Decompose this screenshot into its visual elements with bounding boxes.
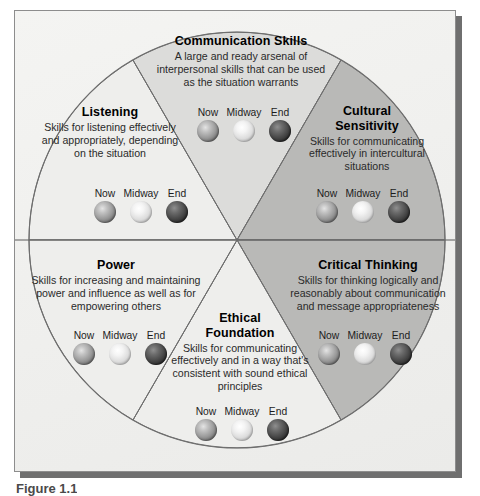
scale-communication-skills: Now Midway End [193, 107, 295, 142]
segment-description-cultural-sensitivity: Skills for communicating effectively in … [296, 135, 438, 174]
scale-label-now: Now [196, 406, 217, 417]
scale-cultural-sensitivity: Now Midway End [312, 188, 414, 223]
segment-description-ethical-foundation: Skills for communicating effectively and… [164, 342, 316, 394]
orb-end[interactable] [267, 419, 289, 441]
scale-item-now[interactable]: Now [314, 330, 344, 365]
segment-title-cultural-sensitivity: Cultural Sensitivity [296, 104, 438, 134]
scale-power: Now Midway End [69, 330, 171, 365]
orb-now[interactable] [73, 343, 95, 365]
orb-now[interactable] [197, 120, 219, 142]
orb-midway[interactable] [231, 419, 253, 441]
scale-label-midway: Midway [103, 330, 138, 341]
scale-item-now[interactable]: Now [191, 406, 221, 441]
segment-title-ethical-foundation: Ethical Foundation [164, 311, 316, 341]
segment-description-critical-thinking: Skills for thinking logically and reason… [286, 274, 450, 313]
scale-ethical-foundation: Now Midway End [191, 406, 293, 441]
scale-item-end[interactable]: End [263, 406, 293, 441]
scale-label-end: End [147, 330, 165, 341]
segment-power: Power Skills for increasing and maintain… [28, 258, 204, 313]
scale-label-end: End [390, 188, 408, 199]
scale-label-midway: Midway [348, 330, 383, 341]
figure-caption: Figure 1.1 [16, 481, 77, 496]
segment-title-power: Power [28, 258, 204, 273]
segment-title-listening: Listening [35, 105, 185, 120]
orb-midway[interactable] [354, 343, 376, 365]
segment-listening: Listening Skills for listening effective… [35, 105, 185, 160]
orb-now[interactable] [195, 419, 217, 441]
segment-communication-skills: Communication Skills A large and ready a… [156, 34, 326, 89]
scale-item-midway[interactable]: Midway [227, 406, 257, 441]
orb-now[interactable] [318, 343, 340, 365]
orb-end[interactable] [390, 343, 412, 365]
orb-midway[interactable] [352, 201, 374, 223]
segment-title-critical-thinking: Critical Thinking [286, 258, 450, 273]
segment-title-communication-skills: Communication Skills [156, 34, 326, 49]
orb-midway[interactable] [130, 201, 152, 223]
segment-title-line2: Sensitivity [335, 119, 399, 133]
scale-label-now: Now [319, 330, 340, 341]
segment-title-line1: Cultural [343, 104, 391, 118]
scale-label-end: End [392, 330, 410, 341]
orb-end[interactable] [269, 120, 291, 142]
segment-critical-thinking: Critical Thinking Skills for thinking lo… [286, 258, 450, 313]
scale-item-end[interactable]: End [141, 330, 171, 365]
scale-label-end: End [271, 107, 289, 118]
segment-description-power: Skills for increasing and maintaining po… [28, 274, 204, 313]
scale-item-end[interactable]: End [162, 188, 192, 223]
scale-item-end[interactable]: End [386, 330, 416, 365]
scale-item-midway[interactable]: Midway [348, 188, 378, 223]
scale-item-midway[interactable]: Midway [105, 330, 135, 365]
scale-label-now: Now [317, 188, 338, 199]
scale-item-midway[interactable]: Midway [350, 330, 380, 365]
orb-midway[interactable] [233, 120, 255, 142]
scale-label-midway: Midway [227, 107, 262, 118]
scale-label-end: End [168, 188, 186, 199]
scale-label-now: Now [74, 330, 95, 341]
scale-label-midway: Midway [225, 406, 260, 417]
orb-now[interactable] [94, 201, 116, 223]
scale-item-now[interactable]: Now [193, 107, 223, 142]
scale-critical-thinking: Now Midway End [314, 330, 416, 365]
scale-label-midway: Midway [346, 188, 381, 199]
orb-now[interactable] [316, 201, 338, 223]
scale-item-now[interactable]: Now [69, 330, 99, 365]
segment-title-line2: Foundation [205, 326, 274, 340]
scale-item-end[interactable]: End [384, 188, 414, 223]
segment-title-line1: Ethical [219, 311, 261, 325]
segment-ethical-foundation: Ethical Foundation Skills for communicat… [164, 311, 316, 393]
scale-item-now[interactable]: Now [90, 188, 120, 223]
scale-label-now: Now [95, 188, 116, 199]
scale-item-midway[interactable]: Midway [229, 107, 259, 142]
segment-description-listening: Skills for listening effectively and app… [35, 121, 185, 160]
scale-listening: Now Midway End [90, 188, 192, 223]
orb-end[interactable] [166, 201, 188, 223]
scale-label-midway: Midway [124, 188, 159, 199]
scale-item-end[interactable]: End [265, 107, 295, 142]
scale-item-midway[interactable]: Midway [126, 188, 156, 223]
scale-label-now: Now [198, 107, 219, 118]
scale-item-now[interactable]: Now [312, 188, 342, 223]
orb-end[interactable] [145, 343, 167, 365]
segment-description-communication-skills: A large and ready arsenal of interperson… [156, 50, 326, 89]
scale-label-end: End [269, 406, 287, 417]
orb-midway[interactable] [109, 343, 131, 365]
segment-cultural-sensitivity: Cultural Sensitivity Skills for communic… [296, 104, 438, 173]
orb-end[interactable] [388, 201, 410, 223]
